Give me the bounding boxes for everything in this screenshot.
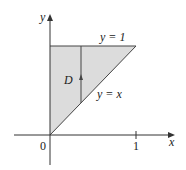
- diagonal-boundary-label: y = x: [96, 87, 122, 101]
- y-axis-label: y: [39, 10, 46, 24]
- origin-label: 0: [40, 139, 46, 153]
- region-diagram: y x 0 1 y = 1 y = x D: [0, 0, 186, 170]
- top-boundary-label: y = 1: [99, 30, 125, 44]
- x-axis-label: x: [168, 135, 175, 149]
- y-axis-arrow-icon: [47, 14, 53, 21]
- region-label: D: [63, 73, 73, 87]
- x-tick-label: 1: [133, 139, 139, 153]
